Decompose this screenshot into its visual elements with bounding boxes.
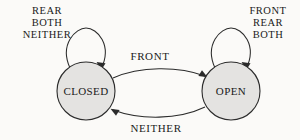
state-diagram-canvas: CLOSED OPEN FRONT NEITHER REAR BOTH NEIT… (0, 0, 300, 140)
open-self-loop-label: FRONT REAR BOTH (250, 5, 287, 40)
closed-self-loop-label-line-3: NEITHER (23, 29, 71, 40)
state-node-closed[interactable]: CLOSED (57, 62, 115, 120)
open-self-loop-label-line-2: REAR (253, 17, 283, 28)
state-diagram: CLOSED OPEN FRONT NEITHER REAR BOTH NEIT… (0, 0, 300, 140)
closed-self-loop-label-line-2: BOTH (32, 17, 63, 28)
state-open-label: OPEN (216, 85, 246, 97)
transition-closed-to-open-arc (113, 69, 205, 78)
state-node-open[interactable]: OPEN (202, 62, 260, 120)
open-self-loop-label-line-3: BOTH (253, 29, 284, 40)
transition-open-to-closed (111, 107, 206, 117)
transition-closed-to-open (113, 69, 208, 78)
transition-label-front: FRONT (130, 50, 169, 62)
transition-open-to-closed-arc (113, 107, 205, 117)
closed-self-loop-label: REAR BOTH NEITHER (23, 5, 71, 40)
state-closed-label: CLOSED (63, 85, 108, 97)
transition-label-neither: NEITHER (130, 122, 181, 134)
open-self-loop-label-line-1: FRONT (250, 5, 287, 16)
closed-self-loop-label-line-1: REAR (32, 5, 62, 16)
